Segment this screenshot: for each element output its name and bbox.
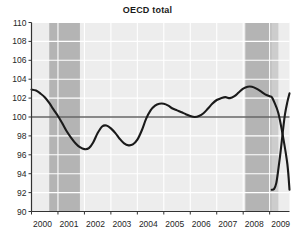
x-axis-tick-label: 2002 [86, 219, 105, 229]
x-axis-tick-label: 2007 [218, 219, 237, 229]
y-axis-tick-label: 98 [17, 131, 27, 141]
x-axis-tick-label: 2006 [192, 219, 211, 229]
y-axis-tick-label: 104 [12, 74, 26, 84]
x-axis-tick-label: 2001 [60, 219, 79, 229]
x-axis-tick-label: 2004 [139, 219, 158, 229]
y-axis-tick-label: 92 [17, 188, 27, 198]
chart-plot-svg: 9092949698100102104106108110 20002001200… [0, 0, 295, 243]
chart-container: OECD total 9092949698100102104106108110 … [0, 0, 295, 243]
x-axis-tick-label: 2005 [165, 219, 184, 229]
x-axis-tick-label: 2003 [112, 219, 131, 229]
y-axis-tick-label: 110 [13, 18, 27, 28]
y-axis-tick-label: 102 [12, 93, 26, 103]
y-axis-tick-label: 90 [17, 207, 27, 217]
y-axis-tick-label: 100 [12, 112, 26, 122]
y-axis-tick-label: 96 [17, 150, 27, 160]
x-axis-labels-group: 2000200120022003200420052006200720082009 [33, 219, 290, 229]
x-axis-tick-label: 2000 [33, 219, 52, 229]
x-axis-tick-label: 2008 [245, 219, 264, 229]
x-axis-tick-label: 2009 [271, 219, 290, 229]
y-axis-tick-label: 94 [17, 169, 27, 179]
y-axis-labels-group: 9092949698100102104106108110 [12, 18, 26, 217]
y-axis-tick-label: 108 [12, 36, 26, 46]
y-axis-tick-label: 106 [12, 55, 26, 65]
